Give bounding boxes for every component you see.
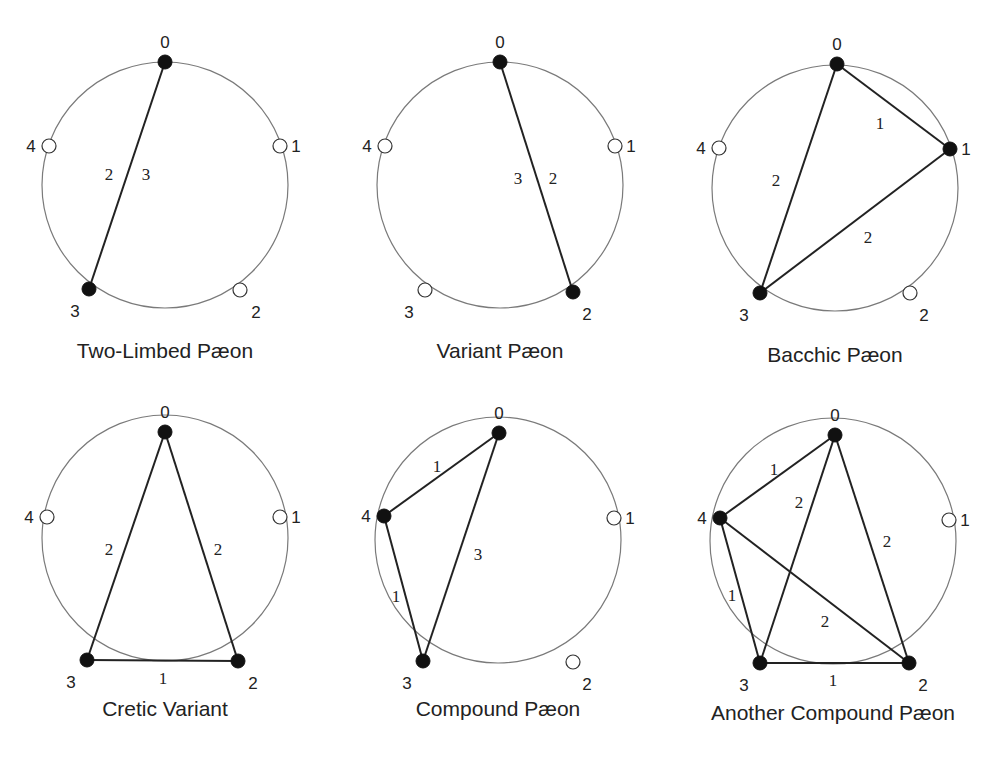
paeon-diagram: 12201234Bacchic Pæon bbox=[696, 35, 970, 366]
diagram-caption: Compound Pæon bbox=[416, 697, 581, 720]
edge-weight-label: 2 bbox=[772, 171, 781, 190]
diagram-caption: Cretic Variant bbox=[102, 697, 228, 720]
node-label: 3 bbox=[66, 673, 75, 692]
edge-weight-label: 1 bbox=[728, 586, 737, 605]
node-label: 1 bbox=[626, 137, 635, 156]
edge-weight-label: 2 bbox=[549, 169, 558, 188]
node-label: 2 bbox=[582, 675, 591, 694]
edge-0-2 bbox=[500, 62, 573, 292]
filled-node bbox=[82, 282, 96, 296]
node-label: 4 bbox=[362, 137, 371, 156]
cycle-ring bbox=[710, 418, 956, 664]
edge-4-3 bbox=[384, 516, 423, 661]
paeon-diagram: 22101234Cretic Variant bbox=[24, 403, 300, 720]
empty-node bbox=[942, 513, 956, 527]
edge-weight-label: 2 bbox=[105, 540, 114, 559]
cycle-ring bbox=[42, 62, 288, 308]
paeon-diagram: 2301234Two-Limbed Pæon bbox=[26, 33, 300, 362]
paeon-diagram: 3201234Variant Pæon bbox=[362, 33, 635, 362]
node-label: 3 bbox=[404, 303, 413, 322]
cycle-ring bbox=[712, 65, 958, 311]
empty-node bbox=[42, 139, 56, 153]
edge-weight-label: 2 bbox=[864, 228, 873, 247]
edge-0-3 bbox=[89, 62, 165, 289]
node-label: 0 bbox=[160, 33, 169, 52]
empty-node bbox=[378, 139, 392, 153]
empty-node bbox=[903, 286, 917, 300]
edge-0-2 bbox=[835, 435, 909, 663]
edge-weight-label: 2 bbox=[795, 493, 804, 512]
edge-4-3 bbox=[720, 518, 760, 663]
empty-node bbox=[40, 510, 54, 524]
filled-node bbox=[493, 55, 507, 69]
empty-node bbox=[273, 139, 287, 153]
node-label: 3 bbox=[70, 302, 79, 321]
paeon-diagram: 13101234Compound Pæon bbox=[361, 404, 634, 720]
diagram-caption: Bacchic Pæon bbox=[767, 343, 902, 366]
diagram-caption: Variant Pæon bbox=[437, 339, 564, 362]
node-label: 2 bbox=[919, 306, 928, 325]
edge-0-3 bbox=[87, 432, 165, 660]
cycle-ring bbox=[42, 415, 288, 661]
edge-weight-label: 2 bbox=[214, 540, 223, 559]
edge-weight-label: 2 bbox=[105, 165, 114, 184]
edge-4-2 bbox=[720, 518, 909, 663]
node-label: 3 bbox=[739, 306, 748, 325]
filled-node bbox=[713, 511, 727, 525]
node-label: 0 bbox=[160, 403, 169, 422]
edge-weight-label: 2 bbox=[821, 612, 830, 631]
node-label: 4 bbox=[361, 507, 370, 526]
edge-weight-label: 3 bbox=[142, 165, 151, 184]
edge-weight-label: 2 bbox=[883, 532, 892, 551]
node-label: 2 bbox=[582, 305, 591, 324]
node-label: 2 bbox=[248, 674, 257, 693]
empty-node bbox=[607, 511, 621, 525]
paeon-diagrams-canvas: 2301234Two-Limbed Pæon3201234Variant Pæo… bbox=[0, 0, 1004, 769]
filled-node bbox=[416, 654, 430, 668]
node-label: 2 bbox=[918, 676, 927, 695]
empty-node bbox=[273, 510, 287, 524]
node-label: 0 bbox=[495, 33, 504, 52]
paeon-diagram: 12212101234Another Compound Pæon bbox=[697, 406, 969, 724]
edge-weight-label: 1 bbox=[159, 669, 168, 688]
edge-weight-label: 1 bbox=[829, 671, 838, 690]
node-label: 1 bbox=[961, 140, 970, 159]
filled-node bbox=[492, 426, 506, 440]
node-label: 1 bbox=[291, 508, 300, 527]
filled-node bbox=[377, 509, 391, 523]
filled-node bbox=[943, 142, 957, 156]
node-label: 4 bbox=[696, 139, 705, 158]
node-label: 3 bbox=[739, 676, 748, 695]
empty-node bbox=[608, 139, 622, 153]
node-label: 0 bbox=[830, 406, 839, 425]
node-label: 1 bbox=[960, 511, 969, 530]
edge-4-0 bbox=[384, 433, 499, 516]
edge-weight-label: 1 bbox=[433, 457, 442, 476]
filled-node bbox=[830, 57, 844, 71]
filled-node bbox=[158, 425, 172, 439]
node-label: 4 bbox=[24, 508, 33, 527]
edge-1-3 bbox=[760, 149, 950, 293]
diagram-caption: Two-Limbed Pæon bbox=[77, 339, 253, 362]
empty-node bbox=[233, 283, 247, 297]
filled-node bbox=[828, 428, 842, 442]
filled-node bbox=[902, 656, 916, 670]
filled-node bbox=[566, 285, 580, 299]
node-label: 0 bbox=[494, 404, 503, 423]
edge-0-2 bbox=[165, 432, 238, 661]
edge-0-1 bbox=[837, 64, 950, 149]
node-label: 4 bbox=[26, 137, 35, 156]
node-label: 4 bbox=[697, 509, 706, 528]
edge-3-2 bbox=[87, 660, 238, 661]
empty-node bbox=[418, 283, 432, 297]
edge-weight-label: 3 bbox=[474, 545, 483, 564]
filled-node bbox=[753, 286, 767, 300]
node-label: 1 bbox=[625, 509, 634, 528]
filled-node bbox=[231, 654, 245, 668]
cycle-ring bbox=[377, 62, 623, 308]
edge-weight-label: 1 bbox=[392, 587, 401, 606]
node-label: 3 bbox=[402, 674, 411, 693]
cycle-ring bbox=[375, 417, 621, 663]
edge-weight-label: 1 bbox=[770, 460, 779, 479]
empty-node bbox=[566, 655, 580, 669]
